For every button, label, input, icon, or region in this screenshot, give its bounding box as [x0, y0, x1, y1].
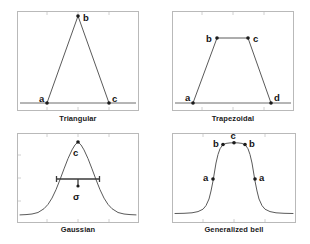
point-marker-a-left [211, 177, 215, 181]
generalized-bell-curve [175, 143, 293, 214]
point-marker-a [191, 101, 195, 105]
panel-generalized-bell: b c b a a Generalized bell [172, 133, 296, 223]
plot-frame [18, 12, 139, 111]
gaussian-plot: c σ [17, 133, 139, 223]
point-label-d: d [274, 92, 280, 103]
sigma-label: σ [73, 191, 80, 202]
point-marker-b-left [221, 143, 225, 147]
trapezoidal-plot: a b c d [172, 11, 294, 111]
point-marker-b-right [243, 143, 247, 147]
point-marker-c [76, 140, 80, 144]
point-label-b: b [206, 33, 212, 44]
panel-gaussian: c σ Gaussian [17, 133, 139, 223]
sigma-annotation: σ [56, 176, 100, 202]
point-marker-d [269, 101, 273, 105]
sigma-pointer-head [76, 184, 79, 187]
point-marker-c [246, 36, 250, 40]
point-label-a-left: a [203, 172, 209, 183]
triangular-plot: a b c [17, 11, 139, 111]
caption-gaussian: Gaussian [17, 225, 139, 234]
point-label-b-right: b [249, 138, 255, 149]
point-label-c: c [112, 93, 117, 104]
plot-frame [173, 134, 296, 223]
trapezoidal-curve [193, 38, 271, 103]
axis-ticks [202, 12, 264, 110]
point-label-c: c [253, 33, 258, 44]
point-marker-c [107, 101, 111, 105]
point-label-a-right: a [259, 172, 265, 183]
caption-trapezoidal: Trapezoidal [172, 114, 294, 123]
generalized-bell-plot: b c b a a [172, 133, 296, 223]
triangular-curve [47, 16, 109, 103]
point-marker-a-right [253, 177, 257, 181]
panel-trapezoidal: a b c d Trapezoidal [172, 11, 294, 111]
caption-triangular: Triangular [17, 114, 139, 123]
point-marker-a [45, 101, 49, 105]
axis-ticks [47, 12, 109, 110]
point-label-c: c [73, 147, 78, 158]
point-label-b-left: b [213, 138, 219, 149]
caption-generalized-bell: Generalized bell [172, 225, 296, 234]
point-marker-b [76, 14, 80, 18]
point-label-a: a [39, 93, 45, 104]
point-label-b: b [83, 12, 89, 23]
membership-functions-figure: a b c Triangular a b c [0, 0, 310, 244]
panel-triangular: a b c Triangular [17, 11, 139, 111]
point-label-a: a [185, 92, 191, 103]
point-label-c: c [231, 133, 236, 141]
point-marker-c [232, 141, 236, 145]
point-marker-b [215, 36, 219, 40]
